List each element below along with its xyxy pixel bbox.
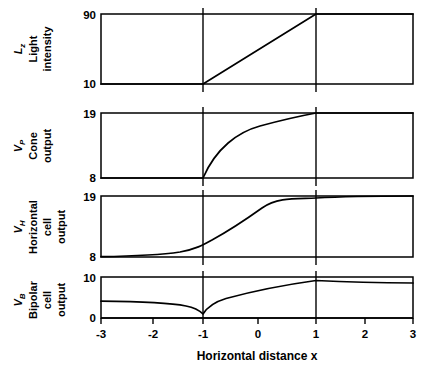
- panel-2-name-line1-group: Cone: [27, 132, 39, 160]
- panel-1-symbol: Lz: [12, 44, 27, 55]
- x-tick-label-minus1: -1: [198, 328, 209, 340]
- panel-3-row-label: VH: [12, 220, 27, 233]
- panel-2-name-line2: output: [41, 129, 53, 164]
- panel-3-ytop-label: 19: [83, 191, 96, 203]
- panel-horizontal-cell-output: 19 8 VH Horizontal cell output: [12, 190, 413, 265]
- panel-4-ytop-label: 10: [83, 272, 96, 284]
- panel-1-name-line1: Light: [27, 35, 39, 62]
- panel-2-row-label: VP: [12, 139, 27, 152]
- panel-1-curve: [101, 14, 413, 84]
- panel-3-ybottom-label: 8: [90, 251, 97, 263]
- panel-1-row-label: Lz: [12, 44, 27, 55]
- figure-container: 90 10 Lz Light intensity 19 8 VP Cone: [0, 0, 428, 374]
- x-tick-label-2: 2: [362, 328, 368, 340]
- panel-1-name-line1-group: Light: [27, 35, 39, 62]
- panel-light-intensity: 90 10 Lz Light intensity: [12, 8, 413, 92]
- panel-4-symbol: VB: [12, 293, 27, 306]
- panel-4-name-line3-group: output: [55, 283, 67, 318]
- x-tick-label-minus3: -3: [96, 328, 106, 340]
- x-tick-label-0: 0: [255, 328, 261, 340]
- x-tick-label-minus2: -2: [148, 328, 158, 340]
- panel-2-symbol: VP: [12, 139, 27, 152]
- panel-4-name-line2: cell: [41, 291, 53, 309]
- panel-3-curve: [101, 196, 413, 257]
- panel-1-symbol-sub: z: [18, 44, 27, 49]
- panel-1-name-line2: intensity: [41, 26, 53, 72]
- panel-4-curve: [101, 281, 413, 315]
- panel-1-ytop-label: 90: [83, 9, 96, 21]
- panel-bipolar-cell-output: 10 0 VB Bipolar cell output: [12, 271, 413, 324]
- panel-2-ytop-label: 19: [83, 108, 96, 120]
- panel-3-name-line3: output: [55, 210, 67, 245]
- panel-4-frame: [101, 277, 413, 318]
- panel-cone-output: 19 8 VP Cone output: [12, 107, 413, 186]
- x-axis: -3 -2 -1 0 1 2 3 Horizontal distance x: [96, 318, 416, 363]
- panel-1-ybottom-label: 10: [83, 78, 96, 90]
- panel-2-name-line2-group: output: [41, 129, 53, 164]
- panel-3-symbol: VH: [12, 220, 27, 233]
- x-axis-title: Horizontal distance x: [197, 349, 318, 363]
- panel-3-name-line3-group: output: [55, 210, 67, 245]
- panel-4-name-line1-group: Bipolar: [27, 280, 39, 319]
- x-tick-label-3: 3: [410, 328, 416, 340]
- panel-1-frame: [101, 14, 413, 84]
- panel-4-name-line2-group: cell: [41, 291, 53, 309]
- panel-3-name-line1: Horizontal: [27, 200, 39, 254]
- panel-2-ybottom-label: 8: [90, 172, 97, 184]
- panel-2-frame: [101, 113, 413, 178]
- panel-3-frame: [101, 196, 413, 257]
- x-tick-label-1: 1: [313, 328, 320, 340]
- panel-1-name-line2-group: intensity: [41, 26, 53, 72]
- panel-4-symbol-sub: B: [18, 293, 27, 299]
- panel-4-ybottom-label: 0: [90, 312, 96, 324]
- panel-2-name-line1: Cone: [27, 132, 39, 160]
- retina-response-figure: 90 10 Lz Light intensity 19 8 VP Cone: [0, 0, 428, 374]
- panel-2-curve: [101, 113, 413, 178]
- panel-4-name-line3: output: [55, 283, 67, 318]
- panel-3-symbol-sub: H: [18, 220, 27, 226]
- panel-3-name-line2: cell: [41, 218, 53, 236]
- panel-3-name-line2-group: cell: [41, 218, 53, 236]
- panel-3-name-line1-group: Horizontal: [27, 200, 39, 254]
- panel-2-symbol-sub: P: [18, 139, 27, 145]
- panel-4-row-label: VB: [12, 293, 27, 306]
- panel-4-name-line1: Bipolar: [27, 280, 39, 319]
